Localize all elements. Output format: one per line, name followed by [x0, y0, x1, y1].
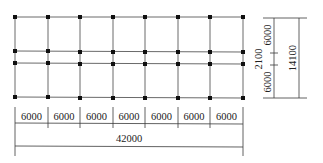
dim-span-1: 6000: [21, 111, 42, 122]
dim-bay-top: 6000: [262, 25, 273, 46]
dim-span-6: 6000: [184, 111, 205, 122]
dim-total-depth: 14100: [287, 45, 298, 71]
dim-span-4: 6000: [119, 111, 140, 122]
dim-span-7: 6000: [216, 111, 237, 122]
grid-rows: [15, 17, 243, 98]
grid-plan-diagram: 6000 6000 6000 6000 6000 6000 6000 42000…: [0, 0, 323, 163]
grid-columns: [15, 17, 243, 97]
dim-span-3: 6000: [86, 111, 107, 122]
dim-span-5: 6000: [151, 111, 172, 122]
dim-total-width: 42000: [116, 133, 142, 144]
dim-bay-bottom: 6000: [262, 72, 273, 93]
right-dimension-chain: 6000 2100 6000 14100: [253, 18, 307, 98]
dim-span-2: 6000: [54, 111, 75, 122]
bottom-dimension-chain: 6000 6000 6000 6000 6000 6000 6000 42000: [15, 107, 243, 156]
dim-corridor: 2100: [253, 49, 264, 70]
